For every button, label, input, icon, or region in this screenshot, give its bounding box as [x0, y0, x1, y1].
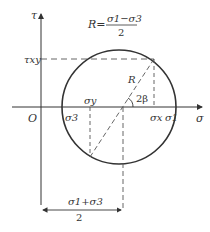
- radius-formula-denominator: 2: [118, 27, 124, 38]
- sigma-y-label: σy: [84, 95, 97, 106]
- radius-formula-lhs: R=: [87, 18, 106, 31]
- diameter-line: [90, 59, 154, 157]
- origin-label: O: [28, 112, 37, 125]
- mohr-circle-diagram: τ σ O τxy σy σx σ1 σ3 R 2β R= σ1−σ3 2 σ1…: [0, 0, 210, 232]
- radius-formula-numerator: σ1−σ3: [107, 13, 142, 24]
- sigma-x-label: σx: [150, 112, 163, 123]
- angle-arc: [128, 98, 133, 107]
- angle-label: 2β: [136, 93, 148, 104]
- center-formula-denominator: 2: [76, 212, 82, 223]
- sigma-axis-label: σ: [196, 112, 204, 125]
- radius-label: R: [127, 74, 136, 85]
- tau-axis-label: τ: [31, 9, 38, 22]
- sigma-1-label: σ1: [165, 112, 178, 123]
- sigma-3-label: σ3: [65, 112, 78, 123]
- center-formula-numerator: σ1+σ3: [68, 196, 103, 207]
- tau-xy-label: τxy: [24, 54, 41, 65]
